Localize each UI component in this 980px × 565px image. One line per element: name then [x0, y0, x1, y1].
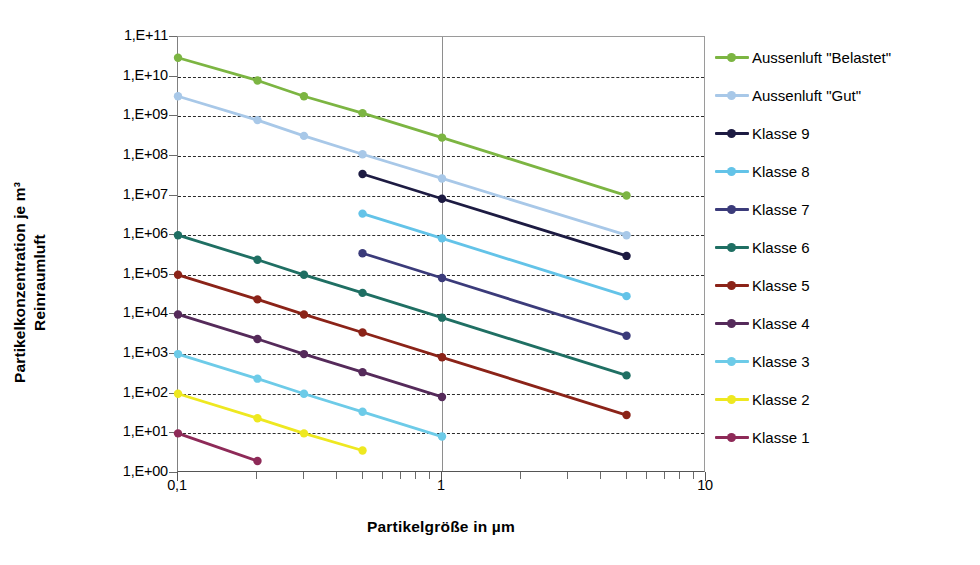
y-axis-title: Partikelkonzentration je m³ Reinraumluft — [0, 0, 60, 565]
y-axis-tick-label: 1,E+04 — [96, 304, 168, 320]
series-11 — [174, 429, 262, 465]
chart-canvas: Partikelkonzentration je m³ Reinraumluft… — [0, 0, 980, 565]
y-axis-tick — [169, 76, 177, 77]
data-point — [622, 292, 630, 300]
series-line — [178, 58, 627, 196]
legend-item-label: Klasse 6 — [752, 239, 810, 256]
plot-area — [177, 36, 705, 472]
series-line — [178, 433, 257, 461]
data-point — [358, 408, 366, 416]
data-point — [622, 252, 630, 260]
data-point — [438, 432, 446, 440]
data-point — [438, 234, 446, 242]
data-point — [438, 195, 446, 203]
data-point — [438, 274, 446, 282]
legend-item-11[interactable]: Klasse 1 — [715, 418, 977, 456]
x-axis-tick-minor — [567, 472, 568, 479]
data-point — [358, 446, 366, 454]
x-axis-tick-minor — [256, 472, 257, 479]
legend-item-label: Klasse 8 — [752, 163, 810, 180]
data-point — [622, 191, 630, 199]
y-axis-tick-label: 1,E+10 — [96, 67, 168, 83]
data-point — [358, 249, 366, 257]
data-point — [253, 256, 261, 264]
data-point — [174, 429, 182, 437]
data-point — [300, 132, 308, 140]
x-axis-tick-label: 0,1 — [157, 477, 197, 493]
y-axis-tick-label: 1,E+08 — [96, 146, 168, 162]
legend-marker-icon — [715, 392, 749, 406]
data-point — [438, 174, 446, 182]
data-point — [300, 429, 308, 437]
data-point — [622, 411, 630, 419]
y-axis-tick — [169, 36, 177, 37]
data-point — [358, 289, 366, 297]
x-axis-tick-minor — [626, 472, 627, 479]
x-axis-tick-minor — [679, 472, 680, 479]
legend-item-label: Klasse 5 — [752, 277, 810, 294]
y-axis-title-line1: Partikelkonzentration je m³ — [10, 182, 30, 383]
series-9 — [174, 350, 446, 441]
data-point — [253, 374, 261, 382]
x-axis-tick-minor — [382, 472, 383, 479]
series-10 — [174, 390, 367, 455]
data-point — [300, 92, 308, 100]
y-axis-tick-label: 1,E+09 — [96, 106, 168, 122]
data-point — [253, 457, 261, 465]
series-6 — [174, 231, 631, 380]
series-7 — [174, 271, 631, 420]
legend-marker-icon — [715, 316, 749, 330]
x-axis-tick-minor — [664, 472, 665, 479]
data-point — [174, 92, 182, 100]
series-line — [363, 253, 627, 336]
data-point — [300, 310, 308, 318]
legend-item-2[interactable]: Aussenluft "Gut" — [715, 76, 977, 114]
legend-marker-icon — [715, 126, 749, 140]
legend-item-4[interactable]: Klasse 8 — [715, 152, 977, 190]
series-line — [178, 235, 627, 375]
legend-item-10[interactable]: Klasse 2 — [715, 380, 977, 418]
series-line — [363, 214, 627, 297]
legend-item-8[interactable]: Klasse 4 — [715, 304, 977, 342]
x-axis-title: Partikelgröße in µm — [177, 518, 705, 536]
series-line — [178, 354, 442, 436]
data-point — [174, 231, 182, 239]
y-axis-tick — [169, 472, 177, 473]
legend-item-label: Aussenluft "Gut" — [752, 87, 861, 104]
data-point — [253, 295, 261, 303]
data-point — [253, 335, 261, 343]
legend-item-label: Klasse 7 — [752, 201, 810, 218]
data-point — [174, 54, 182, 62]
series-8 — [174, 310, 446, 401]
legend-item-1[interactable]: Aussenluft "Belastet" — [715, 38, 977, 76]
legend-item-5[interactable]: Klasse 7 — [715, 190, 977, 228]
legend-marker-icon — [715, 164, 749, 178]
legend-marker-icon — [715, 354, 749, 368]
x-axis-tick-minor — [415, 472, 416, 479]
legend-item-3[interactable]: Klasse 9 — [715, 114, 977, 152]
series-line — [363, 174, 627, 256]
y-axis-tick — [169, 115, 177, 116]
x-axis-tick-minor — [520, 472, 521, 479]
data-point — [622, 332, 630, 340]
legend-item-9[interactable]: Klasse 3 — [715, 342, 977, 380]
legend-item-7[interactable]: Klasse 5 — [715, 266, 977, 304]
data-point — [622, 231, 630, 239]
x-axis-tick-minor — [400, 472, 401, 479]
x-axis-tick-label: 10 — [685, 477, 725, 493]
data-point — [358, 328, 366, 336]
legend-item-6[interactable]: Klasse 6 — [715, 228, 977, 266]
legend-marker-icon — [715, 50, 749, 64]
legend-item-label: Klasse 4 — [752, 315, 810, 332]
data-point — [358, 209, 366, 217]
legend-marker-icon — [715, 430, 749, 444]
data-point — [174, 271, 182, 279]
y-axis-title-line2: Reinraumluft — [30, 182, 50, 383]
chart-legend: Aussenluft "Belastet"Aussenluft "Gut"Kla… — [715, 38, 977, 456]
series-line — [178, 314, 442, 396]
data-point — [253, 414, 261, 422]
legend-marker-icon — [715, 278, 749, 292]
x-axis-tick-minor — [303, 472, 304, 479]
y-axis-tick-label: 1,E+02 — [96, 384, 168, 400]
x-axis-tick-minor — [646, 472, 647, 479]
